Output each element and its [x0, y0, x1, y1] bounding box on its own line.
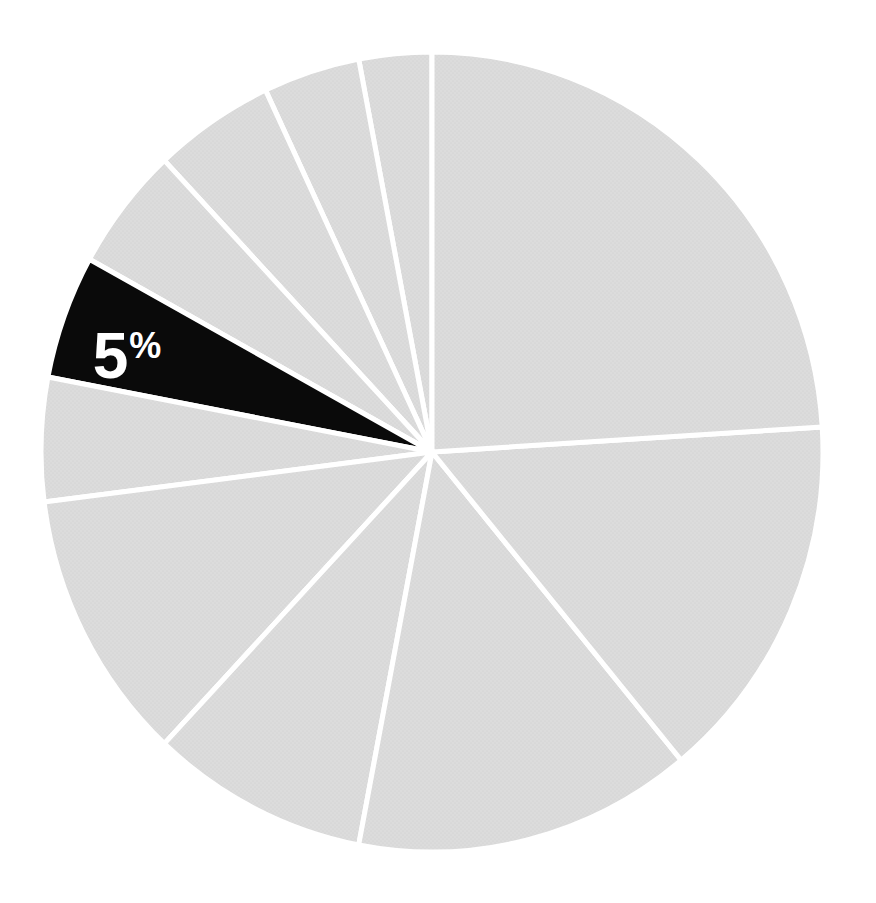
pie-chart: 5% — [0, 0, 876, 903]
pie-slice — [432, 52, 822, 452]
pie-chart-svg: 5% — [0, 0, 876, 903]
